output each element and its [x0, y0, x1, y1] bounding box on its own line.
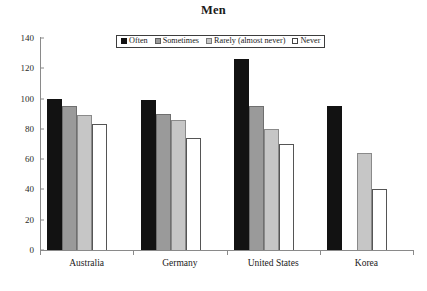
chart-container: Men 020406080100120140 AustraliaGermanyU… [0, 0, 427, 291]
bar[interactable] [62, 106, 77, 250]
legend-swatch-icon [121, 38, 127, 44]
bar-group [133, 38, 226, 250]
y-tick-label: 100 [21, 94, 41, 104]
bar-group-bars [133, 38, 226, 250]
bar[interactable] [156, 114, 171, 250]
legend-item[interactable]: Rarely (almost never) [206, 37, 285, 45]
y-tick-label: 140 [21, 33, 41, 43]
legend-swatch-icon [155, 38, 161, 44]
x-axis-tick [320, 250, 321, 255]
legend-swatch-icon [206, 38, 212, 44]
x-axis-label: United States [227, 258, 320, 268]
bar[interactable] [92, 124, 107, 250]
bar[interactable] [77, 115, 92, 250]
x-axis-label: Korea [320, 258, 413, 268]
x-axis-labels: AustraliaGermanyUnited StatesKorea [40, 258, 413, 268]
bar[interactable] [372, 189, 387, 250]
legend-label: Rarely (almost never) [214, 37, 285, 45]
legend-item[interactable]: Often [121, 37, 148, 45]
chart-title: Men [0, 3, 427, 18]
y-tick-label: 120 [21, 63, 41, 73]
bar-group-bars [320, 38, 413, 250]
y-tick-label: 40 [25, 184, 40, 194]
bar-group [227, 38, 320, 250]
plot-area: 020406080100120140 [40, 38, 413, 250]
bar-group-bars [227, 38, 320, 250]
bar-group [320, 38, 413, 250]
bar[interactable] [234, 59, 249, 250]
bar-group-bars [40, 38, 133, 250]
legend-item[interactable]: Never [292, 37, 320, 45]
bar[interactable] [279, 144, 294, 250]
legend-label: Often [129, 37, 148, 45]
bar[interactable] [357, 153, 372, 250]
bar[interactable] [186, 138, 201, 250]
y-tick-label: 20 [25, 215, 40, 225]
y-tick-label: 80 [25, 124, 40, 134]
bar[interactable] [264, 129, 279, 250]
legend-swatch-icon [292, 38, 298, 44]
legend-label: Never [300, 37, 320, 45]
chart-legend: OftenSometimesRarely (almost never)Never [116, 35, 325, 48]
x-axis-label: Australia [40, 258, 133, 268]
bar[interactable] [171, 120, 186, 250]
bar[interactable] [327, 106, 342, 250]
x-axis-tick [413, 250, 414, 255]
x-axis-tick [40, 250, 41, 255]
bar-groups [40, 38, 413, 250]
bar[interactable] [249, 106, 264, 250]
x-axis-tick [133, 250, 134, 255]
bar[interactable] [47, 99, 62, 250]
y-tick-label: 0 [30, 245, 41, 255]
legend-label: Sometimes [163, 37, 199, 45]
bar[interactable] [141, 100, 156, 250]
legend-item[interactable]: Sometimes [155, 37, 199, 45]
bar-group [40, 38, 133, 250]
x-axis-tick [227, 250, 228, 255]
y-tick-label: 60 [25, 154, 40, 164]
x-axis-label: Germany [133, 258, 226, 268]
